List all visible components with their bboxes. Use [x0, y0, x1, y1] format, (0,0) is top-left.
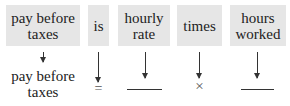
down-arrow-icon — [257, 52, 258, 78]
phrase-label: is — [93, 18, 103, 34]
down-arrow-icon — [145, 52, 146, 78]
phrase-label: pay before taxes — [11, 10, 75, 42]
phrase-label: hourly rate — [121, 10, 167, 42]
down-arrow-icon — [43, 52, 44, 62]
blank-line-hourly-rate — [127, 89, 162, 90]
phrase-box-is: is — [88, 5, 109, 46]
equals-sign: = — [92, 82, 105, 96]
phrase-box-hourly-rate: hourly rate — [118, 5, 170, 46]
phrase-box-pay-before-taxes: pay before taxes — [6, 5, 80, 46]
times-sign: × — [193, 79, 206, 93]
term-text: pay before taxes — [8, 68, 78, 100]
blank-line-hours-worked — [241, 89, 274, 90]
translated-term-pay-before-taxes: pay before taxes — [6, 68, 80, 100]
down-arrow-icon — [98, 52, 99, 82]
phrase-label: times — [183, 18, 216, 34]
phrase-label: hours worked — [233, 10, 283, 42]
phrase-box-times: times — [177, 5, 222, 46]
phrase-box-hours-worked: hours worked — [230, 5, 286, 46]
down-arrow-icon — [199, 52, 200, 78]
